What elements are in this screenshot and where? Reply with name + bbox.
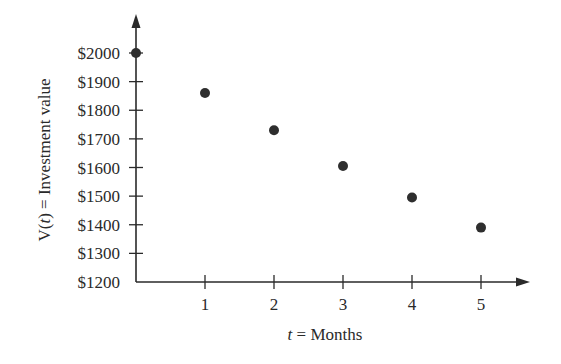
data-point [200, 88, 210, 98]
y-axis-label-rest: ) = Investment value [35, 78, 54, 218]
x-tick-label: 2 [270, 295, 279, 314]
data-points [131, 48, 486, 233]
y-tick-label: $2000 [78, 44, 121, 63]
x-tick-label: 1 [201, 295, 210, 314]
y-tick-label: $1200 [78, 273, 121, 292]
data-point [407, 193, 417, 203]
y-tick-label: $1500 [78, 187, 121, 206]
data-point [131, 48, 141, 58]
axes [132, 14, 531, 287]
y-axis-ticks: $2000$1900$1800$1700$1600$1500$1400$1300… [78, 44, 144, 292]
x-tick-label: 5 [477, 295, 486, 314]
x-axis-label-rest: = Months [292, 325, 362, 344]
data-point [476, 223, 486, 233]
x-tick-label: 3 [339, 295, 348, 314]
y-tick-label: $1600 [78, 159, 121, 178]
y-axis-label: V(t) = Investment value [35, 78, 54, 241]
data-point [269, 125, 279, 135]
y-axis-arrow-icon [132, 14, 141, 28]
y-tick-label: $1800 [78, 101, 121, 120]
y-axis-label-v: V( [35, 223, 54, 241]
y-tick-label: $1700 [78, 130, 121, 149]
x-axis-arrow-icon [516, 278, 530, 287]
x-axis-ticks: 12345 [201, 275, 486, 314]
x-axis-label: t = Months [288, 325, 363, 344]
y-tick-label: $1400 [78, 216, 121, 235]
data-point [338, 161, 348, 171]
y-tick-label: $1300 [78, 244, 121, 263]
scatter-chart: $2000$1900$1800$1700$1600$1500$1400$1300… [0, 0, 561, 364]
y-tick-label: $1900 [78, 73, 121, 92]
x-tick-label: 4 [408, 295, 417, 314]
